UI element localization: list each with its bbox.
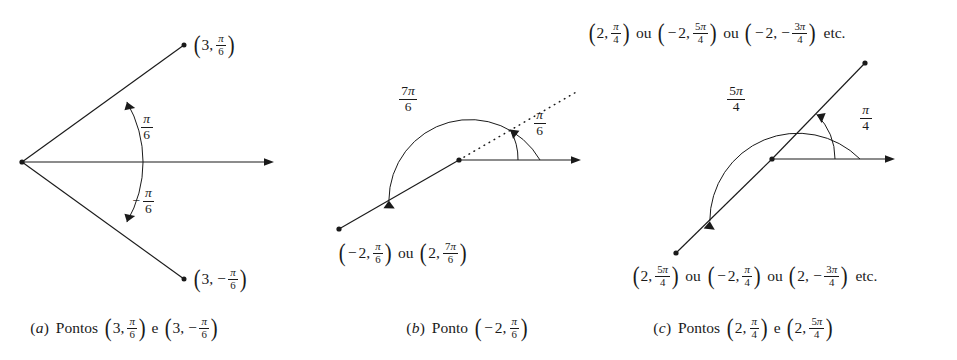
arc-arrow-outer-c [704,220,717,231]
arc-label-inner-c: π4 [859,103,872,133]
bottom-label-c: (2, 5π 4 ) ou ( −2, π4 ) ou (2, − 3 [631,264,877,288]
arc-arrow-outer-b [383,200,395,210]
point-label-upper-a: (3, π6 ) [192,33,236,57]
math-expression: π6 [140,112,153,142]
math-expression: (a) Pontos (3, π6 ) e (3, − π6 ) [30,316,219,340]
panel-a-diagram [0,0,320,300]
math-expression: (c) Pontos (2, π4 ) e (2, 5π 4 ) [653,316,834,340]
origin-dot-c [769,156,774,161]
caption-c: (c) Pontos (2, π4 ) e (2, 5π 4 ) [653,316,834,340]
caption-b: (b) Ponto ( −2, π6 ) [406,316,529,340]
polar-coordinates-figure: (3, π6 ) (3, − π6 ) π6 − π6 [0,0,957,360]
math-expression: (2, 5π 4 ) ou ( −2, π4 ) ou (2, − 3 [631,264,877,288]
ray-solid-b [339,160,459,229]
ray-lower-a [22,162,184,279]
math-expression: 7π 6 [398,84,418,114]
point-dot-upper-a [182,43,187,48]
origin-dot-a [19,159,24,164]
point-dot-upper-c [862,60,867,65]
math-expression: (3, − π6 ) [192,267,248,291]
angle-arc-inner-c [817,114,835,159]
math-expression: 5π 4 [726,84,746,114]
math-expression: ( −2, π6 ) ou (2, 7π 6 ) [337,241,468,265]
arc-label-outer-b: 7π 6 [398,84,418,114]
arc-label-outer-c: 5π 4 [726,84,746,114]
arc-arrow-inner-c [814,109,828,123]
point-dot-lower-c [673,250,678,255]
polar-axis-a [22,158,274,166]
math-expression: π4 [859,103,872,133]
arc-label-inner-b: π6 [533,108,546,138]
point-label-b: ( −2, π6 ) ou (2, 7π 6 ) [337,241,468,265]
ray-upper-c [772,63,865,159]
math-expression: (3, π6 ) [192,33,236,57]
dotted-ray-b [459,91,578,160]
ray-upper-a [22,45,184,162]
point-dot-lower-a [182,277,187,282]
panel-c-diagram [600,0,957,300]
arc-label-lower-a: − π6 [131,186,155,216]
point-label-lower-a: (3, − π6 ) [192,267,248,291]
math-expression: − π6 [131,186,155,216]
arc-arrow-upper-a [122,100,135,111]
polar-axis-c [772,155,895,163]
math-expression: π6 [533,108,546,138]
caption-a: (a) Pontos (3, π6 ) e (3, − π6 ) [30,316,219,340]
point-dot-b [336,226,341,231]
polar-axis-b [459,156,581,164]
panel-a: (3, π6 ) (3, − π6 ) π6 − π6 [0,0,320,360]
math-expression: (b) Ponto ( −2, π6 ) [406,316,529,340]
panel-b: 7π 6 π6 ( −2, π6 ) ou (2, 7π [320,0,620,360]
origin-dot-b [456,157,461,162]
arc-label-upper-a: π6 [140,112,153,142]
panel-c: (2, π4 ) ou ( −2, 5π 4 ) ou ( −2, − [600,0,957,360]
